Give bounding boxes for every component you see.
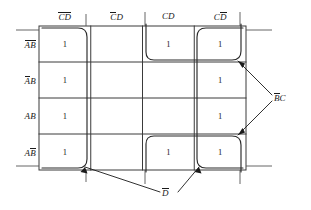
column-header-2: CD	[143, 12, 195, 21]
cell-r3c0: 1	[58, 148, 72, 157]
cell-r1c0: 1	[58, 76, 72, 85]
row-header-0: AB	[2, 40, 36, 50]
column-header-0: CD	[39, 12, 91, 22]
karnaugh-map-figure: CD CD CD CD AB AB AB AB 1 1 1 1 1 1 1 1 …	[0, 0, 311, 210]
column-header-1-text: CD	[110, 12, 123, 22]
kmap-linework	[0, 0, 311, 210]
cell-r2c0: 1	[58, 112, 72, 121]
cell-r0c0: 1	[58, 40, 72, 49]
cell-r3c3: 1	[213, 148, 227, 157]
row-header-1-text: AB	[25, 76, 36, 86]
cell-r2c3: 1	[213, 112, 227, 121]
row-header-3: AB	[2, 148, 36, 158]
column-header-3: CD	[194, 12, 246, 22]
annotation-bbarc: BC	[274, 93, 286, 103]
row-header-3-text: AB	[25, 148, 36, 158]
cell-r1c3: 1	[213, 76, 227, 85]
cell-r0c3: 1	[213, 40, 227, 49]
annotation-bbarc-text: BC	[274, 93, 286, 103]
annotation-dbar: D	[162, 188, 169, 198]
cell-r0c2: 1	[161, 40, 175, 49]
column-header-0-text: CD	[58, 12, 71, 22]
column-header-2-text: CD	[162, 11, 175, 21]
annotation-dbar-text: D	[162, 188, 169, 198]
cell-r3c2: 1	[161, 148, 175, 157]
row-header-0-text: AB	[25, 40, 36, 50]
column-header-1: CD	[91, 12, 143, 22]
row-header-2-text: AB	[25, 111, 36, 121]
row-header-2: AB	[2, 112, 36, 121]
column-header-3-text: CD	[214, 12, 227, 22]
row-header-1: AB	[2, 76, 36, 86]
leader-dbar-left	[85, 167, 160, 192]
